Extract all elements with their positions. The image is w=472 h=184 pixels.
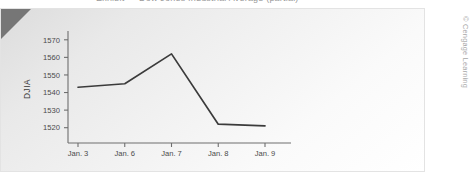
x-tick-label: Jan. 8 (208, 149, 229, 158)
data-series-line (78, 54, 265, 126)
y-tick-label: 1530 (43, 106, 60, 115)
x-tick-label: Jan. 3 (68, 149, 89, 158)
chart-panel: 152015301540155015601570 Jan. 3Jan. 6Jan… (0, 8, 425, 172)
y-tick-label: 1570 (43, 36, 60, 45)
y-tick-label: 1560 (43, 53, 60, 62)
top-cropped-text-strip: Exhibit — Dow Jones Industrial Average (… (0, 0, 472, 7)
x-axis-ticks: Jan. 3Jan. 6Jan. 7Jan. 8Jan. 9 (68, 143, 276, 158)
y-tick-label: 1550 (43, 71, 60, 80)
x-tick-label: Jan. 6 (114, 149, 135, 158)
y-axis-ticks: 152015301540155015601570 (43, 36, 68, 133)
y-tick-label: 1520 (43, 123, 60, 132)
x-tick-label: Jan. 9 (255, 149, 276, 158)
copyright-credit: © Cengage Learning (461, 16, 470, 88)
line-chart-plot: 152015301540155015601570 Jan. 3Jan. 6Jan… (1, 9, 425, 172)
y-tick-label: 1540 (43, 88, 60, 97)
x-tick-label: Jan. 7 (161, 149, 182, 158)
y-axis-label: DJIA (22, 79, 32, 99)
cropped-caption: Exhibit — Dow Jones Industrial Average (… (96, 0, 299, 3)
